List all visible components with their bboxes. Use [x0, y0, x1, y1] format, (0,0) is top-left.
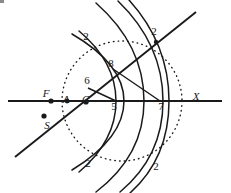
label-number-2-bottom-right: 2: [153, 161, 159, 172]
label-point-f: F: [43, 88, 50, 99]
geometry-figure: F A G S X 6 5 7 8 2 2 2 2: [0, 0, 231, 193]
label-number-2-bottom-left: 2: [85, 158, 91, 169]
segment-eight-to-seven: [113, 69, 160, 101]
label-number-5: 5: [111, 101, 117, 112]
arc-3: [96, 3, 144, 192]
point-marker-F: [48, 98, 53, 103]
label-number-7: 7: [158, 101, 164, 112]
label-number-2-top-right: 2: [151, 26, 157, 37]
label-number-8: 8: [108, 58, 114, 69]
label-point-g: G: [82, 94, 90, 105]
label-point-s: S: [44, 120, 50, 131]
label-number-2-top-left: 2: [83, 31, 89, 42]
label-number-6: 6: [84, 75, 90, 86]
point-marker-top-right-2: [154, 40, 158, 44]
label-point-a: A: [63, 94, 70, 105]
scan-artifact-speck: [0, 0, 4, 3]
label-point-x: X: [193, 91, 200, 102]
